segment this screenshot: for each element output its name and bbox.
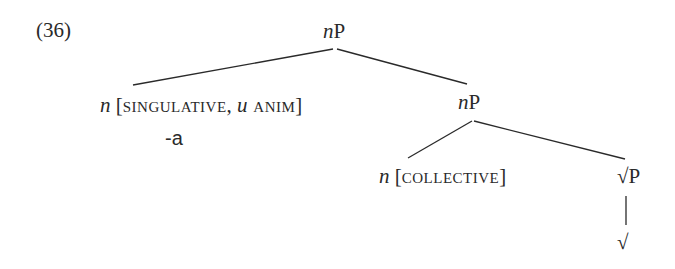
node-rootP: √P [617,166,640,187]
inner-label: P [469,90,481,114]
root-head: n [323,19,334,43]
node-singulative: n [SINGULATIVE, u ANIM] [100,95,302,116]
branch-inner-left [408,121,472,158]
feature-singulative: SINGULATIVE [123,93,227,117]
feature-anim: ANIM [248,93,296,117]
root-label: P [334,19,346,43]
inner-head: n [458,90,469,114]
node-root-terminal: √ [617,232,629,253]
branch-root-left [133,49,333,85]
bracket-open-2: [ [390,164,402,188]
collective-head: n [379,164,390,188]
node-inner-nP: nP [458,92,480,113]
exponent-a: -a [165,128,183,148]
comma: , [227,93,238,117]
bracket-close-2: ] [499,164,506,188]
bracket-close: ] [295,93,302,117]
bracket-open: [ [111,93,123,117]
node-root-nP: nP [323,21,345,42]
branch-root-right [337,49,467,84]
singulative-head: n [100,93,111,117]
node-collective: n [COLLECTIVE] [379,166,506,187]
branch-inner-right [474,121,625,159]
uninterpretable-prefix: u [237,93,248,117]
example-number: (36) [36,20,71,41]
feature-collective: COLLECTIVE [402,164,499,188]
